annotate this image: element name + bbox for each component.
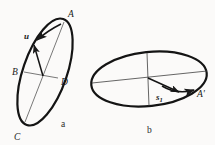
- point-label-a-C: C: [14, 132, 21, 142]
- panel-caption-b: b: [147, 125, 152, 135]
- vector-u-arrow: [34, 45, 43, 76]
- panel-b: s1 A' b: [88, 46, 209, 135]
- minor-axis-line-a: [24, 72, 58, 78]
- panel-a: A B C D u a: [6, 9, 84, 142]
- point-label-a-B: B: [12, 67, 18, 77]
- point-label-b-A-prime: A': [196, 89, 206, 99]
- vector-s1-arrow: [148, 78, 179, 92]
- vertical-axis-line-b: [147, 53, 149, 106]
- vector-label-u: u: [24, 31, 29, 41]
- figure-container: A B C D u a s1 A' b: [0, 0, 215, 145]
- diagram-canvas: A B C D u a s1 A' b: [0, 0, 215, 145]
- vector-label-s1-subscript: 1: [160, 96, 163, 103]
- panel-caption-a: a: [61, 119, 66, 129]
- horizontal-axis-line-b: [92, 71, 207, 83]
- point-label-a-A: A: [67, 9, 74, 19]
- point-label-a-D: D: [60, 77, 68, 87]
- vector-label-s1: s1: [155, 92, 163, 103]
- major-axis-line-a: [25, 22, 64, 122]
